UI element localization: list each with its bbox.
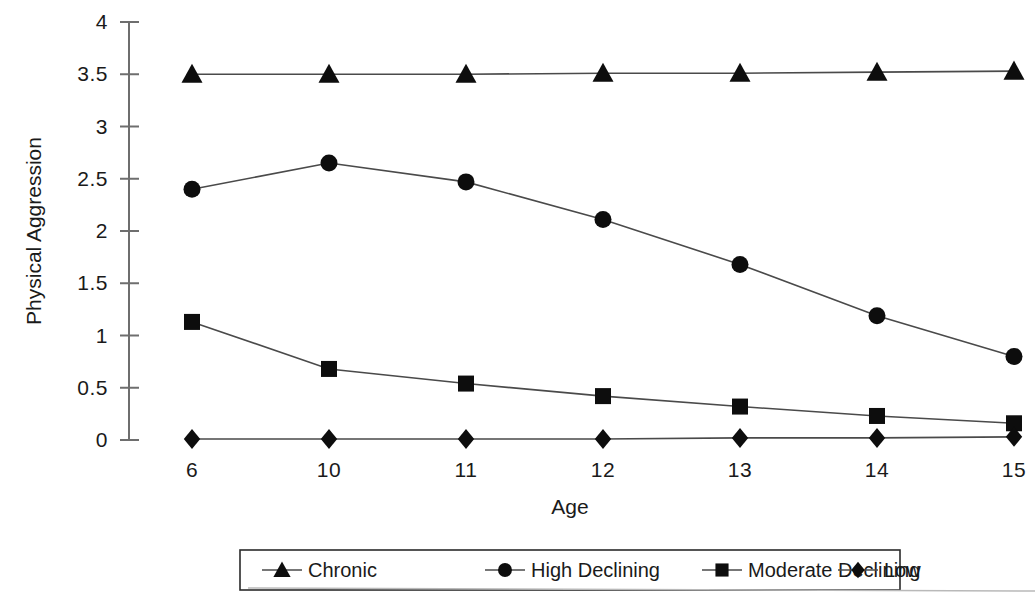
- x-tick-label: 15: [1002, 458, 1026, 481]
- y-tick-label: 3: [96, 115, 108, 138]
- square-marker: [732, 399, 748, 415]
- square-marker: [715, 563, 728, 576]
- circle-marker: [1006, 348, 1023, 365]
- circle-marker: [184, 181, 201, 198]
- x-axis: 6101112131415 Age: [186, 458, 1026, 518]
- x-tick-label: 14: [865, 458, 889, 481]
- series-high-declining: [184, 155, 1023, 365]
- series-moderate-declining: [184, 314, 1022, 431]
- circle-marker: [321, 155, 338, 172]
- series-line: [192, 163, 1014, 356]
- x-tick-label: 12: [591, 458, 615, 481]
- y-tick-label: 1.5: [77, 271, 108, 294]
- physical-aggression-line-chart: 00.511.522.533.54 Physical Aggression 61…: [0, 0, 1035, 605]
- legend-item-chronic[interactable]: Chronic: [262, 559, 377, 581]
- legend-items: ChronicHigh DecliningModerate DecliningL…: [262, 559, 921, 581]
- x-axis-title: Age: [551, 495, 588, 518]
- diamond-marker: [321, 429, 337, 449]
- legend-label: Chronic: [308, 559, 377, 581]
- x-tick-labels: 6101112131415: [186, 458, 1026, 481]
- triangle-marker: [593, 63, 614, 82]
- circle-marker: [732, 256, 749, 273]
- series-chronic: [182, 61, 1025, 83]
- y-tick-label: 0: [96, 428, 108, 451]
- y-axis-title: Physical Aggression: [22, 137, 45, 325]
- y-axis: 00.511.522.533.54 Physical Aggression: [22, 10, 139, 451]
- diamond-marker: [184, 429, 200, 449]
- square-marker: [869, 408, 885, 424]
- y-tick-label: 4: [96, 10, 108, 33]
- y-tick-label: 0.5: [77, 376, 108, 399]
- diamond-marker: [732, 428, 748, 448]
- series-layer: [182, 61, 1025, 449]
- triangle-marker: [1004, 61, 1025, 80]
- triangle-marker: [730, 63, 751, 82]
- x-tick-label: 10: [317, 458, 341, 481]
- y-tick-label: 2: [96, 219, 108, 242]
- y-tick-label: 2.5: [77, 167, 108, 190]
- square-marker: [184, 314, 200, 330]
- x-tick-label: 13: [728, 458, 752, 481]
- circle-marker: [869, 307, 886, 324]
- circle-marker: [498, 563, 512, 577]
- triangle-marker: [319, 64, 340, 83]
- chart-canvas: 00.511.522.533.54 Physical Aggression 61…: [0, 0, 1035, 605]
- triangle-marker: [867, 62, 888, 81]
- square-marker: [458, 376, 474, 392]
- diamond-marker: [595, 429, 611, 449]
- x-tick-label: 6: [186, 458, 198, 481]
- legend-item-high-declining[interactable]: High Declining: [485, 559, 660, 581]
- circle-marker: [458, 173, 475, 190]
- square-marker: [321, 361, 337, 377]
- triangle-marker: [182, 64, 203, 83]
- diamond-marker: [458, 429, 474, 449]
- triangle-marker: [456, 64, 477, 83]
- series-low: [184, 427, 1022, 449]
- legend-label: High Declining: [531, 559, 660, 581]
- y-tick-label: 1: [96, 324, 108, 347]
- series-line: [192, 322, 1014, 423]
- x-tick-label: 11: [455, 458, 478, 481]
- square-marker: [595, 388, 611, 404]
- diamond-marker: [869, 428, 885, 448]
- chart-legend: ChronicHigh DecliningModerate DecliningL…: [240, 550, 921, 590]
- y-tick-labels: 00.511.522.533.54: [77, 10, 108, 451]
- circle-marker: [595, 211, 612, 228]
- y-tick-label: 3.5: [77, 62, 108, 85]
- legend-label: Low: [884, 559, 921, 581]
